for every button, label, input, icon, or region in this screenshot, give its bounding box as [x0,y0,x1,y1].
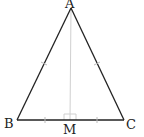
triangle-diagram: A B C M [0,0,144,137]
side-ac [71,8,124,120]
median-am [70,8,71,120]
label-b: B [4,116,14,131]
label-a: A [64,0,75,11]
label-m: M [63,122,76,137]
label-c: C [126,117,136,132]
